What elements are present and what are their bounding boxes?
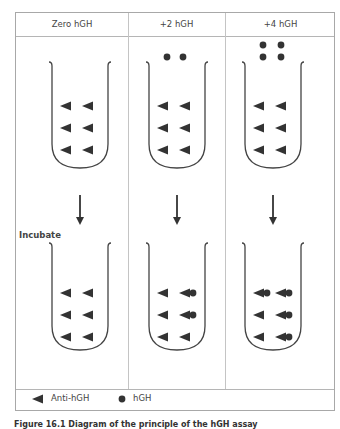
hgh-icon [164,54,171,61]
anti-hgh-icon [82,146,93,155]
anti-hgh-icon [253,124,264,133]
anti-hgh-icon [179,146,190,155]
hgh-icon [286,290,293,297]
test-tube [146,62,208,168]
test-tube [49,243,111,350]
anti-hgh-icon [253,289,264,298]
hgh-icon [190,312,197,319]
test-tube [49,62,111,168]
anti-hgh-icon [275,311,286,320]
incubate-label: Incubate [19,230,61,240]
anti-hgh-icon [82,102,93,111]
hgh-icon [264,290,271,297]
hgh-icon [286,312,293,319]
down-arrow-icon [76,217,84,225]
hgh-icon [119,396,126,403]
hgh-icon [260,54,267,61]
anti-hgh-icon [253,311,264,320]
anti-hgh-icon [60,124,71,133]
anti-hgh-icon [157,124,168,133]
legend-hormone-label: hGH [133,393,151,403]
anti-hgh-icon [275,102,286,111]
anti-hgh-icon [82,124,93,133]
anti-hgh-icon [253,146,264,155]
hgh-icon [190,290,197,297]
anti-hgh-icon [82,289,93,298]
anti-hgh-icon [275,124,286,133]
anti-hgh-icon [275,333,286,342]
legend-antibody-label: Anti-hGH [51,393,89,403]
anti-hgh-icon [253,333,264,342]
anti-hgh-icon [275,289,286,298]
hgh-icon [286,334,293,341]
test-tube [242,62,304,168]
anti-hgh-icon [157,289,168,298]
hgh-icon [180,54,187,61]
anti-hgh-icon [60,333,71,342]
anti-hgh-icon [179,289,190,298]
anti-hgh-icon [32,395,43,404]
anti-hgh-icon [253,102,264,111]
anti-hgh-icon [60,311,71,320]
down-arrow-icon [173,217,181,225]
anti-hgh-icon [157,311,168,320]
anti-hgh-icon [82,333,93,342]
anti-hgh-icon [179,102,190,111]
anti-hgh-icon [179,333,190,342]
anti-hgh-icon [60,146,71,155]
anti-hgh-icon [179,311,190,320]
down-arrow-icon [269,217,277,225]
hgh-icon [278,54,285,61]
anti-hgh-icon [82,311,93,320]
hgh-icon [278,42,285,49]
anti-hgh-icon [157,102,168,111]
anti-hgh-icon [179,124,190,133]
anti-hgh-icon [60,102,71,111]
anti-hgh-icon [157,333,168,342]
anti-hgh-icon [275,146,286,155]
test-tube [146,243,208,350]
anti-hgh-icon [157,146,168,155]
hgh-icon [260,42,267,49]
figure-caption: Figure 16.1 Diagram of the principle of … [14,420,258,429]
test-tube [242,243,304,350]
anti-hgh-icon [60,289,71,298]
